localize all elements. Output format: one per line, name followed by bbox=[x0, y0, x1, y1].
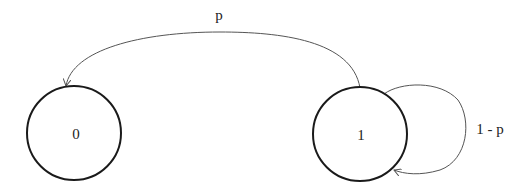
transition-label-p: p bbox=[215, 7, 223, 23]
edge-arrow bbox=[66, 32, 360, 88]
self-loop-arrow bbox=[384, 85, 466, 174]
state-label-1: 1 bbox=[357, 127, 365, 143]
transition-1-to-0: p bbox=[66, 7, 360, 88]
transition-label-1-p: 1 - p bbox=[476, 121, 504, 137]
state-node-1: 1 bbox=[313, 87, 407, 181]
transition-1-to-1: 1 - p bbox=[384, 85, 504, 174]
state-diagram: p 1 - p 0 1 bbox=[0, 0, 527, 191]
state-label-0: 0 bbox=[72, 126, 80, 142]
state-node-0: 0 bbox=[27, 86, 121, 180]
